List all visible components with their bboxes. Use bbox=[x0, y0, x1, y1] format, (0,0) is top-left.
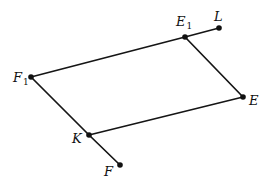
segment-k-f bbox=[89, 135, 120, 165]
label-e1: E1 bbox=[175, 14, 192, 31]
point-l bbox=[216, 25, 222, 31]
point-f1 bbox=[28, 74, 34, 80]
label-k: K bbox=[71, 131, 83, 146]
diagram-canvas: F1 E1 L E K F bbox=[0, 0, 271, 187]
point-e1 bbox=[182, 34, 188, 40]
segment-f1-k bbox=[31, 77, 89, 135]
label-f1: F1 bbox=[12, 70, 29, 87]
segment-e1-e bbox=[185, 37, 243, 97]
point-f bbox=[117, 162, 123, 168]
label-f: F bbox=[103, 164, 114, 179]
point-e bbox=[240, 94, 246, 100]
label-l: L bbox=[213, 9, 223, 24]
label-e: E bbox=[248, 93, 259, 108]
point-k bbox=[86, 132, 92, 138]
segment-f1-e1 bbox=[31, 37, 185, 77]
segment-e-k bbox=[89, 97, 243, 135]
